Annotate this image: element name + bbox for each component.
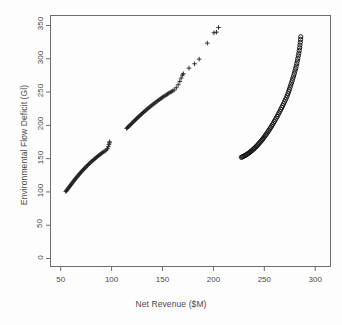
x-tick-label: 150 — [156, 275, 169, 284]
series-middle-front — [124, 25, 220, 131]
x-axis-title: Net Revenue ($M) — [0, 299, 342, 309]
series-lower-left-front — [63, 140, 111, 194]
y-tick-label: 200 — [36, 117, 45, 130]
data-points-layer — [63, 25, 302, 194]
x-tick-label: 300 — [309, 275, 322, 284]
y-tick-label: 100 — [36, 184, 45, 197]
x-tick-label: 250 — [258, 275, 271, 284]
plot-box — [51, 16, 331, 267]
data-point-circle — [299, 35, 303, 39]
y-tick-label: 350 — [36, 17, 45, 30]
plot-border — [51, 16, 331, 267]
y-tick-label: 50 — [36, 219, 45, 228]
y-axis-title: Environmental Flow Deficit (Gl) — [19, 65, 29, 225]
y-axis-ticks — [46, 25, 51, 258]
x-tick-label: 50 — [56, 275, 65, 284]
y-tick-label: 150 — [36, 150, 45, 163]
y-tick-label: 250 — [36, 84, 45, 97]
plot-canvas — [0, 0, 342, 325]
x-tick-label: 100 — [105, 275, 118, 284]
x-tick-label: 200 — [207, 275, 220, 284]
y-tick-label: 300 — [36, 51, 45, 64]
series-right-front — [239, 35, 303, 160]
y-tick-label: 0 — [36, 255, 45, 259]
scatter-plot-figure: Net Revenue ($M) Environmental Flow Defi… — [0, 0, 342, 325]
x-axis-ticks — [61, 267, 316, 272]
